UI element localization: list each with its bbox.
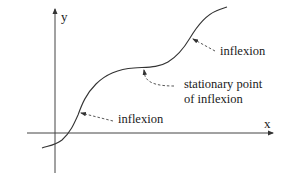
diagram-canvas: y x inflexion inflexion stationary point… xyxy=(0,0,284,180)
upper-inflexion-pointer xyxy=(193,39,215,51)
lower-inflexion-label: inflexion xyxy=(118,112,164,126)
x-axis-label: x xyxy=(264,116,271,131)
lower-inflexion-pointer xyxy=(81,113,113,121)
stationary-point-label-line1: stationary point xyxy=(184,77,263,91)
inflexion-diagram: y x inflexion inflexion stationary point… xyxy=(0,0,284,180)
stationary-point-label-line2: of inflexion xyxy=(184,92,243,106)
upper-inflexion-label: inflexion xyxy=(220,44,266,58)
stationary-point-pointer xyxy=(144,70,174,86)
y-axis-label: y xyxy=(61,9,68,24)
